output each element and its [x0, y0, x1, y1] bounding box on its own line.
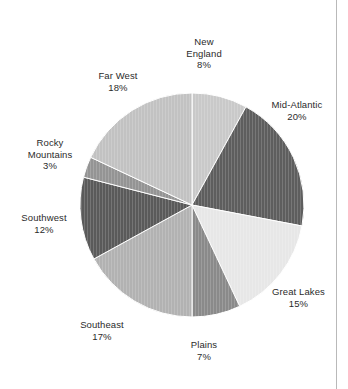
pie-label-new-england-percent: 8% [168, 59, 240, 71]
pie-label-new-england-line2: England [168, 48, 240, 60]
pie-label-rocky-mountains: Rocky Mountains 3% [14, 137, 86, 172]
pie-label-far-west-percent: 18% [82, 82, 154, 94]
pie-label-rocky-mountains-percent: 3% [14, 160, 86, 172]
pie-label-southwest: Southwest 12% [8, 212, 80, 235]
pie-label-mid-atlantic: Mid-Atlantic 20% [258, 99, 336, 122]
pie-label-southeast: Southeast 17% [66, 319, 138, 342]
pie-label-great-lakes-percent: 15% [261, 298, 336, 310]
pie-label-plains: Plains 7% [174, 339, 234, 362]
pie-label-new-england: New England 8% [168, 36, 240, 71]
pie-label-southeast-percent: 17% [66, 331, 138, 343]
pie-label-plains-percent: 7% [174, 351, 234, 363]
pie-label-great-lakes-line1: Great Lakes [261, 286, 336, 298]
pie-label-rocky-mountains-line2: Mountains [14, 149, 86, 161]
pie-label-southwest-line1: Southwest [8, 212, 80, 224]
pie-label-new-england-line1: New [168, 36, 240, 48]
pie-texture-overlay [80, 93, 304, 317]
pie-label-southwest-percent: 12% [8, 224, 80, 236]
pie-chart-figure: New England 8% Mid-Atlantic 20% Great La… [0, 0, 336, 389]
pie-label-far-west: Far West 18% [82, 70, 154, 93]
pie-label-rocky-mountains-line1: Rocky [14, 137, 86, 149]
pie-label-southeast-line1: Southeast [66, 319, 138, 331]
pie-label-plains-line1: Plains [174, 339, 234, 351]
pie-label-mid-atlantic-percent: 20% [258, 111, 336, 123]
page-right-rule [336, 0, 337, 389]
pie-label-great-lakes: Great Lakes 15% [261, 286, 336, 309]
pie-chart-page: New England 8% Mid-Atlantic 20% Great La… [0, 0, 348, 389]
pie-label-far-west-line1: Far West [82, 70, 154, 82]
pie-label-mid-atlantic-line1: Mid-Atlantic [258, 99, 336, 111]
